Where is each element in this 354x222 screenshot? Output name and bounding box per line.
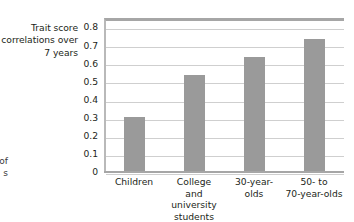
y-tick-label-0.7: 0.7 bbox=[76, 41, 98, 50]
y-tick-label-0.2: 0.2 bbox=[76, 131, 98, 140]
bar-0[interactable] bbox=[124, 117, 145, 172]
x-axis-line bbox=[104, 171, 344, 173]
bar-3[interactable] bbox=[304, 39, 325, 172]
y-tick-label-0.6: 0.6 bbox=[76, 59, 98, 68]
x-category-label-3-line-0: 50- to bbox=[274, 176, 354, 188]
bar-2[interactable] bbox=[244, 57, 265, 172]
y-tick-label-0.1: 0.1 bbox=[76, 149, 98, 158]
x-category-label-3: 50- to70-year-olds bbox=[274, 176, 354, 199]
x-category-label-1-line-3: students bbox=[154, 211, 234, 222]
y-tick-label-0.3: 0.3 bbox=[76, 113, 98, 122]
bar-1[interactable] bbox=[184, 75, 205, 172]
x-category-label-1-line-2: university bbox=[154, 199, 234, 211]
bars-layer bbox=[104, 18, 344, 172]
x-category-label-3-line-1: 70-year-olds bbox=[274, 188, 354, 200]
y-tick-label-0.8: 0.8 bbox=[76, 22, 98, 31]
y-tick-label-0.5: 0.5 bbox=[76, 77, 98, 86]
gridline-0 bbox=[106, 174, 344, 175]
bar-chart: 00.10.20.30.40.50.60.70.8 ChildrenColleg… bbox=[0, 0, 354, 222]
y-tick-label-0.4: 0.4 bbox=[76, 95, 98, 104]
